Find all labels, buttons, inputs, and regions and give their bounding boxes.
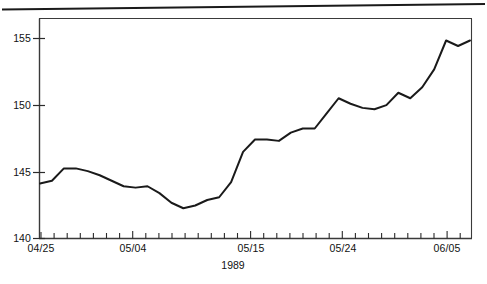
x-tick-label-0605: 06/05	[425, 243, 469, 254]
x-axis-caption: 1989	[203, 259, 263, 271]
x-tick-label-0504: 05/04	[111, 243, 155, 254]
x-axis-ticks	[41, 231, 460, 239]
plot-frame	[39, 19, 472, 239]
y-tick-label-145: 145	[1, 167, 31, 178]
x-tick-label-0515: 05/15	[229, 243, 273, 254]
y-tick-label-155: 155	[1, 33, 31, 44]
y-tick-label-150: 150	[1, 100, 31, 111]
data-series-line	[40, 41, 470, 209]
x-tick-label-0524: 05/24	[321, 243, 365, 254]
x-tick-label-0425: 04/25	[19, 243, 63, 254]
chart-figure: 155 150 145 140 04/25 05/04 05/15 05/24 …	[0, 0, 487, 284]
